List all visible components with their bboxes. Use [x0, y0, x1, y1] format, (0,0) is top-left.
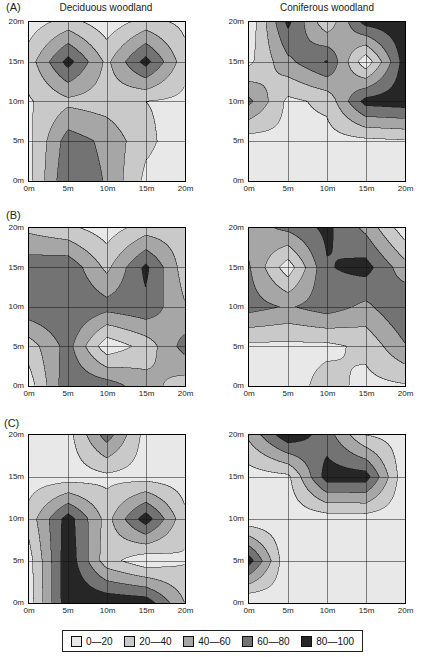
y-tick-label: 20m	[228, 17, 244, 26]
x-axis-labels: 0m 5m 10m 15m 20m	[248, 184, 404, 194]
x-tick-label: 0m	[24, 389, 35, 398]
legend-label: 20—40	[139, 636, 171, 647]
y-axis-labels: 20m 15m 10m 5m 0m	[0, 227, 24, 385]
legend-label: 0—20	[86, 636, 113, 647]
x-tick-label: 20m	[398, 389, 414, 398]
panel-letter-b: (B)	[6, 209, 21, 221]
y-tick-label: 10m	[8, 302, 24, 311]
plot-c-coniferous	[248, 434, 406, 604]
y-tick-label: 15m	[228, 56, 244, 65]
contour-canvas-a-coniferous	[248, 21, 406, 182]
y-tick-label: 0m	[233, 381, 244, 390]
y-tick-label: 0m	[13, 381, 24, 390]
contour-figure: (A) (B) (C) Deciduous woodland Coniferou…	[0, 0, 434, 657]
x-tick-label: 15m	[359, 606, 375, 615]
x-tick-label: 5m	[63, 389, 74, 398]
y-tick-label: 0m	[233, 176, 244, 185]
y-tick-label: 20m	[228, 223, 244, 232]
x-tick-label: 15m	[139, 389, 155, 398]
y-tick-label: 5m	[13, 136, 24, 145]
y-tick-label: 15m	[8, 56, 24, 65]
y-tick-label: 10m	[8, 514, 24, 523]
x-tick-label: 10m	[320, 184, 336, 193]
x-axis-labels: 0m 5m 10m 15m 20m	[248, 606, 404, 616]
plot-c-deciduous	[28, 434, 186, 604]
y-tick-label: 15m	[8, 262, 24, 271]
contour-canvas-b-coniferous	[248, 227, 406, 387]
y-tick-label: 10m	[8, 96, 24, 105]
x-tick-label: 15m	[139, 184, 155, 193]
x-axis-labels: 0m 5m 10m 15m 20m	[28, 184, 184, 194]
x-tick-label: 20m	[398, 606, 414, 615]
y-tick-label: 20m	[8, 223, 24, 232]
y-tick-label: 10m	[228, 96, 244, 105]
legend-label: 80—100	[316, 636, 354, 647]
contour-canvas-c-deciduous	[28, 434, 186, 604]
x-tick-label: 5m	[63, 184, 74, 193]
y-tick-label: 5m	[233, 136, 244, 145]
y-tick-label: 15m	[8, 472, 24, 481]
panel-letter-a: (A)	[6, 1, 21, 13]
contour-canvas-a-deciduous	[28, 21, 186, 182]
y-tick-label: 15m	[228, 262, 244, 271]
x-tick-label: 0m	[24, 184, 35, 193]
x-tick-label: 20m	[398, 184, 414, 193]
legend-swatch-80-100	[301, 636, 312, 647]
y-tick-label: 5m	[13, 556, 24, 565]
y-tick-label: 10m	[228, 302, 244, 311]
plot-b-deciduous	[28, 227, 186, 387]
x-axis-labels: 0m 5m 10m 15m 20m	[28, 389, 184, 399]
x-tick-label: 10m	[320, 606, 336, 615]
x-tick-label: 10m	[100, 606, 116, 615]
legend-item: 40—60	[183, 636, 230, 647]
legend-swatch-0-20	[71, 636, 82, 647]
y-tick-label: 15m	[228, 472, 244, 481]
x-tick-label: 0m	[244, 389, 255, 398]
y-axis-labels: 20m 15m 10m 5m 0m	[0, 434, 24, 602]
x-tick-label: 10m	[100, 184, 116, 193]
x-tick-label: 20m	[178, 389, 194, 398]
legend-swatch-40-60	[183, 636, 194, 647]
y-tick-label: 20m	[8, 430, 24, 439]
column-title-coniferous: Coniferous woodland	[280, 2, 374, 13]
y-tick-label: 0m	[13, 176, 24, 185]
contour-canvas-c-coniferous	[248, 434, 406, 604]
y-axis-labels: 20m 15m 10m 5m 0m	[220, 434, 244, 602]
y-tick-label: 20m	[8, 17, 24, 26]
x-axis-labels: 0m 5m 10m 15m 20m	[28, 606, 184, 616]
x-tick-label: 5m	[283, 389, 294, 398]
x-axis-labels: 0m 5m 10m 15m 20m	[248, 389, 404, 399]
x-tick-label: 0m	[24, 606, 35, 615]
legend-swatch-60-80	[242, 636, 253, 647]
legend: 0—20 20—40 40—60 60—80 80—100	[62, 630, 363, 652]
y-axis-labels: 20m 15m 10m 5m 0m	[220, 21, 244, 180]
column-title-deciduous: Deciduous woodland	[60, 2, 153, 13]
y-tick-label: 5m	[13, 341, 24, 350]
legend-label: 40—60	[198, 636, 230, 647]
y-tick-label: 20m	[228, 430, 244, 439]
legend-item: 60—80	[242, 636, 289, 647]
x-tick-label: 10m	[100, 389, 116, 398]
y-axis-labels: 20m 15m 10m 5m 0m	[220, 227, 244, 385]
x-tick-label: 0m	[244, 184, 255, 193]
x-tick-label: 15m	[139, 606, 155, 615]
x-tick-label: 0m	[244, 606, 255, 615]
plot-b-coniferous	[248, 227, 406, 387]
x-tick-label: 15m	[359, 389, 375, 398]
y-tick-label: 5m	[233, 341, 244, 350]
x-tick-label: 20m	[178, 606, 194, 615]
x-tick-label: 5m	[283, 184, 294, 193]
plot-a-coniferous	[248, 21, 406, 182]
y-tick-label: 0m	[233, 598, 244, 607]
panel-letter-c: (C)	[4, 417, 19, 429]
legend-item: 80—100	[301, 636, 354, 647]
y-tick-label: 0m	[13, 598, 24, 607]
x-tick-label: 5m	[63, 606, 74, 615]
plot-a-deciduous	[28, 21, 186, 182]
y-tick-label: 10m	[228, 514, 244, 523]
legend-label: 60—80	[257, 636, 289, 647]
x-tick-label: 20m	[178, 184, 194, 193]
legend-item: 20—40	[124, 636, 171, 647]
x-tick-label: 5m	[283, 606, 294, 615]
legend-swatch-20-40	[124, 636, 135, 647]
